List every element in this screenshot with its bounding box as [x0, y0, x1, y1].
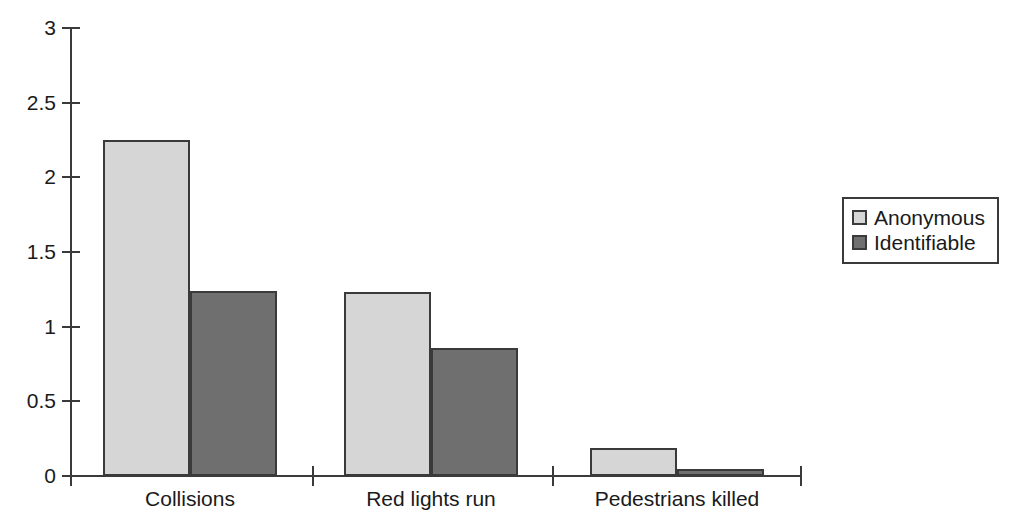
plot-area: 00.511.522.53 CollisionsRed lights runPe… [0, 0, 1014, 529]
y-axis-tick-label: 2.5 [4, 92, 56, 113]
legend-item-identifiable: Identifiable [852, 230, 985, 255]
y-axis-tick [62, 251, 80, 253]
legend-item-label: Identifiable [874, 232, 976, 253]
legend-item-label: Anonymous [874, 207, 985, 228]
bar-red-lights-run-anonymous [344, 292, 431, 476]
x-axis-tick [70, 466, 72, 486]
y-axis-tick-label: 1 [4, 316, 56, 337]
y-axis-tick [62, 326, 80, 328]
legend-swatch-icon [852, 235, 867, 250]
chart-legend: AnonymousIdentifiable [842, 197, 999, 264]
bar-red-lights-run-identifiable [431, 348, 518, 476]
bar-collisions-identifiable [190, 291, 277, 476]
y-axis-tick-label: 2 [4, 166, 56, 187]
y-axis-tick [62, 102, 80, 104]
y-axis-tick-label: 1.5 [4, 241, 56, 262]
bar-chart-figure: 00.511.522.53 CollisionsRed lights runPe… [0, 0, 1014, 529]
bar-collisions-anonymous [103, 140, 190, 476]
y-axis-tick-label: 0 [4, 465, 56, 486]
y-axis-tick [62, 400, 80, 402]
x-axis-tick [800, 466, 802, 486]
x-axis-tick [552, 466, 554, 486]
x-axis-tick [312, 466, 314, 486]
y-axis-tick [62, 27, 80, 29]
bar-pedestrians-killed-anonymous [590, 448, 677, 476]
x-axis-label-pedestrians-killed: Pedestrians killed [527, 487, 827, 511]
y-axis-tick-label: 3 [4, 17, 56, 38]
y-axis-tick-label: 0.5 [4, 390, 56, 411]
bar-pedestrians-killed-identifiable [677, 469, 764, 476]
legend-item-anonymous: Anonymous [852, 205, 985, 230]
legend-swatch-icon [852, 210, 867, 225]
y-axis-tick [62, 176, 80, 178]
